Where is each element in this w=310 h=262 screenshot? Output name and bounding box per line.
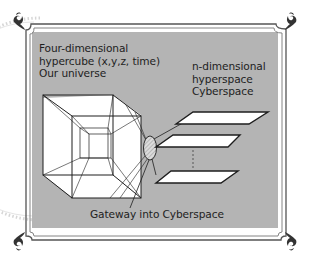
- hyperspace-label: n-dimensional hyperspace Cyberspace: [192, 60, 266, 98]
- fleuron-top-right-icon: [285, 13, 296, 30]
- hypercube-cyberspace-diagram: Four-dimensional hypercube (x,y,z, time)…: [0, 0, 310, 262]
- hypercube-label-line-3: Our universe: [39, 67, 160, 80]
- fleuron-bottom-left-icon: [14, 232, 25, 250]
- hyperspace-label-line-1: n-dimensional: [192, 60, 266, 73]
- gateway-label: Gateway into Cyberspace: [90, 208, 224, 221]
- gateway-portal: [144, 136, 157, 160]
- hyperspace-label-line-3: Cyberspace: [192, 85, 266, 98]
- hypercube-label: Four-dimensional hypercube (x,y,z, time)…: [39, 42, 160, 80]
- fleuron-bottom-right-icon: [285, 232, 296, 250]
- hypercube-label-line-1: Four-dimensional: [39, 42, 160, 55]
- hypercube-illustration: [43, 95, 148, 198]
- fleuron-top-left-icon: [14, 13, 25, 30]
- hyperspace-label-line-2: hyperspace: [192, 73, 266, 86]
- diagram-canvas: [0, 0, 310, 262]
- hypercube-label-line-2: hypercube (x,y,z, time): [39, 55, 160, 68]
